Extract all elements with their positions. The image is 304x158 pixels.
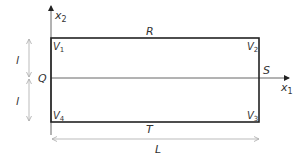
side-label-bottom: T <box>146 123 154 136</box>
vertical-axis-label: x2 <box>54 9 67 24</box>
dimension-label-length: L <box>155 143 161 156</box>
side-label-top: R <box>146 25 154 38</box>
side-label-left: Q <box>38 72 47 85</box>
dimension-label-upper-l: l <box>16 54 19 67</box>
vertex-label-v1: V1 <box>53 41 64 54</box>
rectangle-boundary <box>51 38 259 122</box>
dimension-label-lower-l: l <box>16 95 19 108</box>
horizontal-axis-label: x1 <box>280 81 293 96</box>
vertex-label-v2: V2 <box>247 41 258 54</box>
side-label-right: S <box>263 64 270 77</box>
vertex-label-v4: V4 <box>53 110 65 123</box>
rectangle-domain-diagram: x2 x1 R S T Q V1 V2 V3 V4 l l L <box>0 0 304 158</box>
vertex-label-v3: V3 <box>247 110 258 123</box>
